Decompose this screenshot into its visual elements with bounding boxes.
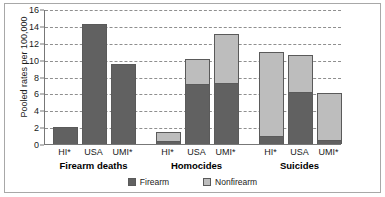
legend-item: Firearm xyxy=(128,177,169,187)
bar xyxy=(156,132,181,144)
x-axis-category-labels: HI*USAUMI*HI*USAUMI*HI*USAUMI* xyxy=(44,147,341,161)
x-group-label: Suicides xyxy=(280,160,319,171)
bar xyxy=(185,59,210,144)
bar xyxy=(111,64,136,144)
bar xyxy=(53,127,78,144)
chart-figure: Pooled rates per 100,000 0246810121416 H… xyxy=(0,0,385,197)
y-tick-label: 2 xyxy=(34,123,39,133)
bar-segment-nonfirearm xyxy=(317,93,342,139)
bar-segment-firearm xyxy=(82,24,107,144)
x-tick-label: USA xyxy=(84,147,103,157)
bar-segment-nonfirearm xyxy=(214,34,239,83)
bar-series-container xyxy=(45,10,341,144)
plot-area xyxy=(44,10,341,145)
legend-item: Nonfirearm xyxy=(203,177,257,187)
x-tick-label: HI* xyxy=(264,147,277,157)
bar-segment-firearm xyxy=(111,64,136,144)
bar-segment-firearm xyxy=(288,92,313,144)
x-tick-label: USA xyxy=(290,147,309,157)
x-tick-label: UMI* xyxy=(216,147,236,157)
bar xyxy=(259,52,284,144)
bar-segment-nonfirearm xyxy=(185,59,210,84)
x-tick-label: UMI* xyxy=(113,147,133,157)
x-tick-label: UMI* xyxy=(319,147,339,157)
bar xyxy=(82,24,107,144)
bar-segment-firearm xyxy=(53,127,78,144)
bar xyxy=(288,55,313,144)
x-axis-group-labels: Firearm deathsHomocidesSuicides xyxy=(44,160,341,174)
bar-segment-firearm xyxy=(156,141,181,144)
y-tick-label: 0 xyxy=(34,140,39,150)
chart-legend: FirearmNonfirearm xyxy=(0,177,385,187)
y-tick-label: 8 xyxy=(34,73,39,83)
y-axis-ticks: 0246810121416 xyxy=(0,10,44,145)
bar-segment-firearm xyxy=(214,83,239,144)
y-tick-label: 4 xyxy=(34,106,39,116)
y-tick-label: 10 xyxy=(29,56,39,66)
bar-segment-firearm xyxy=(317,140,342,144)
y-tick-label: 14 xyxy=(29,22,39,32)
y-tick-label: 12 xyxy=(29,39,39,49)
bar-segment-firearm xyxy=(185,84,210,144)
bar xyxy=(317,93,342,144)
bar-segment-firearm xyxy=(259,136,284,144)
x-tick-label: USA xyxy=(187,147,206,157)
x-tick-label: HI* xyxy=(161,147,174,157)
legend-label: Firearm xyxy=(140,177,169,187)
y-tick-label: 6 xyxy=(34,89,39,99)
legend-swatch xyxy=(203,178,211,186)
bar-segment-nonfirearm xyxy=(288,55,313,91)
y-tick-label: 16 xyxy=(29,5,39,15)
x-group-label: Homocides xyxy=(171,160,222,171)
bar-segment-nonfirearm xyxy=(156,132,181,140)
x-group-label: Firearm deaths xyxy=(59,160,127,171)
legend-swatch xyxy=(128,178,136,186)
bar xyxy=(214,34,239,144)
bar-segment-nonfirearm xyxy=(259,52,284,136)
x-tick-label: HI* xyxy=(58,147,71,157)
legend-label: Nonfirearm xyxy=(215,177,257,187)
